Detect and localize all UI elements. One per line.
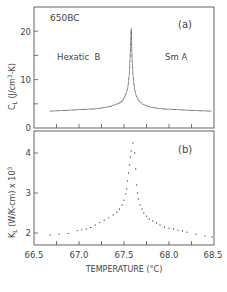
data-point	[120, 102, 121, 103]
data-point	[127, 88, 128, 89]
data-point	[95, 224, 96, 225]
data-point	[137, 99, 138, 100]
data-point	[116, 104, 117, 105]
data-point	[128, 80, 129, 81]
data-point	[133, 82, 134, 83]
data-point	[165, 108, 166, 109]
data-point	[134, 85, 135, 86]
data-point	[129, 77, 130, 78]
data-point	[129, 76, 130, 77]
data-point	[98, 108, 99, 109]
data-point	[161, 108, 162, 109]
data-point	[168, 228, 169, 229]
data-point	[211, 111, 212, 112]
data-point	[194, 110, 195, 111]
data-point	[130, 56, 131, 57]
data-point	[129, 73, 130, 74]
data-point	[145, 105, 146, 106]
data-point	[101, 107, 102, 108]
data-point	[131, 53, 132, 54]
data-point	[160, 108, 161, 109]
panel-a: 650BC (a) Hexatic B Sm A 20 10 0 CL (J/c…	[6, 7, 214, 133]
data-point	[139, 100, 140, 101]
data-point	[51, 111, 52, 112]
data-point	[157, 108, 158, 109]
data-point	[128, 84, 129, 85]
data-point	[132, 61, 133, 62]
data-point	[50, 234, 51, 235]
data-point	[58, 110, 59, 111]
data-point	[99, 222, 100, 223]
data-point	[188, 110, 189, 111]
data-point	[152, 220, 153, 221]
ytick-label-b-4: 4	[26, 148, 31, 158]
data-point	[133, 80, 134, 81]
data-point	[123, 200, 124, 201]
data-point	[128, 82, 129, 83]
data-point	[112, 105, 113, 106]
data-point	[134, 87, 135, 88]
data-point	[99, 108, 100, 109]
data-point	[156, 108, 157, 109]
data-point	[79, 109, 80, 110]
data-point	[132, 62, 133, 63]
data-point	[136, 96, 137, 97]
data-point	[108, 217, 109, 218]
data-point	[104, 220, 105, 221]
data-point	[62, 110, 63, 111]
data-point	[81, 229, 82, 230]
data-point	[141, 102, 142, 103]
data-point	[201, 110, 202, 111]
data-point	[61, 110, 62, 111]
data-point	[178, 109, 179, 110]
data-point	[176, 109, 177, 110]
data-point	[50, 111, 51, 112]
data-point	[140, 204, 141, 205]
data-point	[124, 97, 125, 98]
data-point	[131, 31, 132, 32]
data-point	[135, 91, 136, 92]
data-point	[63, 110, 64, 111]
data-point	[128, 172, 129, 173]
data-point	[136, 95, 137, 96]
data-point	[132, 71, 133, 72]
data-point	[86, 228, 87, 229]
data-point	[137, 97, 138, 98]
data-point	[173, 109, 174, 110]
panel-a-data-points	[50, 28, 212, 111]
data-point	[125, 94, 126, 95]
data-point	[170, 109, 171, 110]
data-point	[126, 93, 127, 94]
data-point	[66, 110, 67, 111]
data-point	[73, 109, 74, 110]
data-point	[146, 216, 147, 217]
data-point	[67, 110, 68, 111]
data-point	[129, 66, 130, 67]
data-point	[134, 86, 135, 87]
data-point	[128, 78, 129, 79]
data-point	[131, 46, 132, 47]
data-point	[74, 109, 75, 110]
data-point	[198, 110, 199, 111]
data-point	[200, 110, 201, 111]
data-point	[131, 30, 132, 31]
data-point	[129, 68, 130, 69]
phase-label-sm-a: Sm A	[165, 52, 187, 62]
data-point	[75, 109, 76, 110]
data-point	[133, 84, 134, 85]
data-point	[137, 192, 138, 193]
sample-label: 650BC	[50, 13, 79, 23]
data-point	[130, 51, 131, 52]
data-point	[133, 74, 134, 75]
data-point	[130, 55, 131, 56]
data-point	[55, 110, 56, 111]
data-point	[109, 106, 110, 107]
data-point	[136, 184, 137, 185]
data-point	[135, 168, 136, 169]
data-point	[183, 109, 184, 110]
data-point	[171, 109, 172, 110]
data-point	[132, 59, 133, 60]
data-point	[138, 198, 139, 199]
xtick-label-67.0: 67.0	[70, 250, 89, 260]
data-point	[207, 110, 208, 111]
